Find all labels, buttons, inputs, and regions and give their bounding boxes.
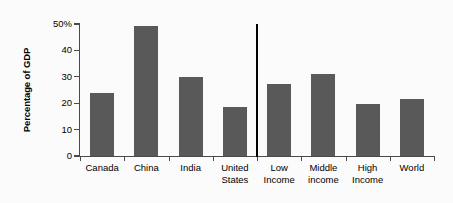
x-axis-label-united-states: UnitedStates xyxy=(213,162,257,185)
y-tick-50% xyxy=(74,23,80,24)
x-axis-label-world: World xyxy=(390,162,434,174)
bar-chart-figure: Percentage of GDP 01020304050% CanadaChi… xyxy=(0,0,453,203)
x-label-line: Income xyxy=(346,174,390,186)
group-divider-line xyxy=(256,24,258,157)
x-tick xyxy=(80,156,81,161)
x-label-line: income xyxy=(301,174,345,186)
y-tick-label-40: 40 xyxy=(26,45,72,55)
y-tick-label-10: 10 xyxy=(26,125,72,135)
y-tick-30 xyxy=(74,76,80,77)
y-tick-20 xyxy=(74,103,80,104)
bar-india xyxy=(179,77,203,156)
x-label-line: China xyxy=(124,162,168,174)
x-tick xyxy=(169,156,170,161)
x-tick xyxy=(213,156,214,161)
bar-low-income xyxy=(267,84,291,156)
x-label-line: Canada xyxy=(80,162,124,174)
x-tick xyxy=(390,156,391,161)
x-axis-label-canada: Canada xyxy=(80,162,124,174)
y-tick-40 xyxy=(74,50,80,51)
bar-middle-income xyxy=(311,74,335,156)
x-axis-label-india: India xyxy=(169,162,213,174)
x-label-line: World xyxy=(390,162,434,174)
x-tick xyxy=(434,156,435,161)
x-tick xyxy=(301,156,302,161)
bar-united-states xyxy=(223,107,247,156)
x-label-line: India xyxy=(169,162,213,174)
x-axis-label-china: China xyxy=(124,162,168,174)
y-tick-label-30: 30 xyxy=(26,72,72,82)
bar-world xyxy=(400,99,424,156)
y-axis-line xyxy=(79,23,80,157)
bar-high-income xyxy=(356,104,380,156)
x-tick xyxy=(124,156,125,161)
x-label-line: United xyxy=(213,162,257,174)
y-tick-label-20: 20 xyxy=(26,98,72,108)
bar-china xyxy=(134,26,158,156)
y-axis-title: Percentage of GDP xyxy=(18,22,36,158)
x-tick xyxy=(346,156,347,161)
y-tick-label-0: 0 xyxy=(26,151,72,161)
x-label-line: High xyxy=(346,162,390,174)
x-label-line: States xyxy=(213,174,257,186)
x-label-line: Low xyxy=(257,162,301,174)
x-label-line: Income xyxy=(257,174,301,186)
x-axis-label-high-income: HighIncome xyxy=(346,162,390,185)
y-tick-label-50%: 50% xyxy=(26,19,72,29)
y-tick-10 xyxy=(74,129,80,130)
x-axis-label-low-income: LowIncome xyxy=(257,162,301,185)
x-label-line: Middle xyxy=(301,162,345,174)
bar-canada xyxy=(90,93,114,156)
x-axis-label-middle-income: Middleincome xyxy=(301,162,345,185)
